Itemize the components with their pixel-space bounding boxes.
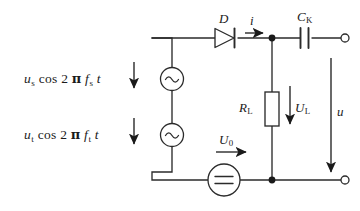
- output-terminal-top: [341, 34, 349, 42]
- resistor-symbol: [265, 92, 279, 126]
- capacitor-symbol: [301, 28, 309, 48]
- ac-source-bottom-symbol: [161, 124, 184, 147]
- dc-source-label: U0: [219, 133, 233, 148]
- capacitor-label: CK: [297, 10, 312, 25]
- junction-dot-bottom: [269, 177, 276, 184]
- wire-source-top: [152, 38, 172, 68]
- output-voltage-label: u: [337, 105, 344, 118]
- diode-label: D: [219, 12, 228, 25]
- current-label: i: [250, 14, 254, 27]
- resistor-label: RL: [239, 101, 253, 116]
- ac-source-bottom-label: utcos2πftt: [24, 128, 99, 144]
- ac-source-top-symbol: [161, 68, 184, 91]
- wire-source-bottom-return: [152, 146, 208, 180]
- diode-symbol: [215, 29, 235, 48]
- circuit-diagram-figure: uscos2πfst utcos2πftt D i CK RL UL u U0: [0, 0, 360, 211]
- ac-source-top-label: uscos2πfst: [24, 72, 101, 88]
- junction-dot-top: [269, 35, 276, 42]
- dc-source-symbol: [208, 164, 240, 196]
- output-terminal-bottom: [341, 176, 349, 184]
- load-voltage-label: UL: [295, 101, 310, 116]
